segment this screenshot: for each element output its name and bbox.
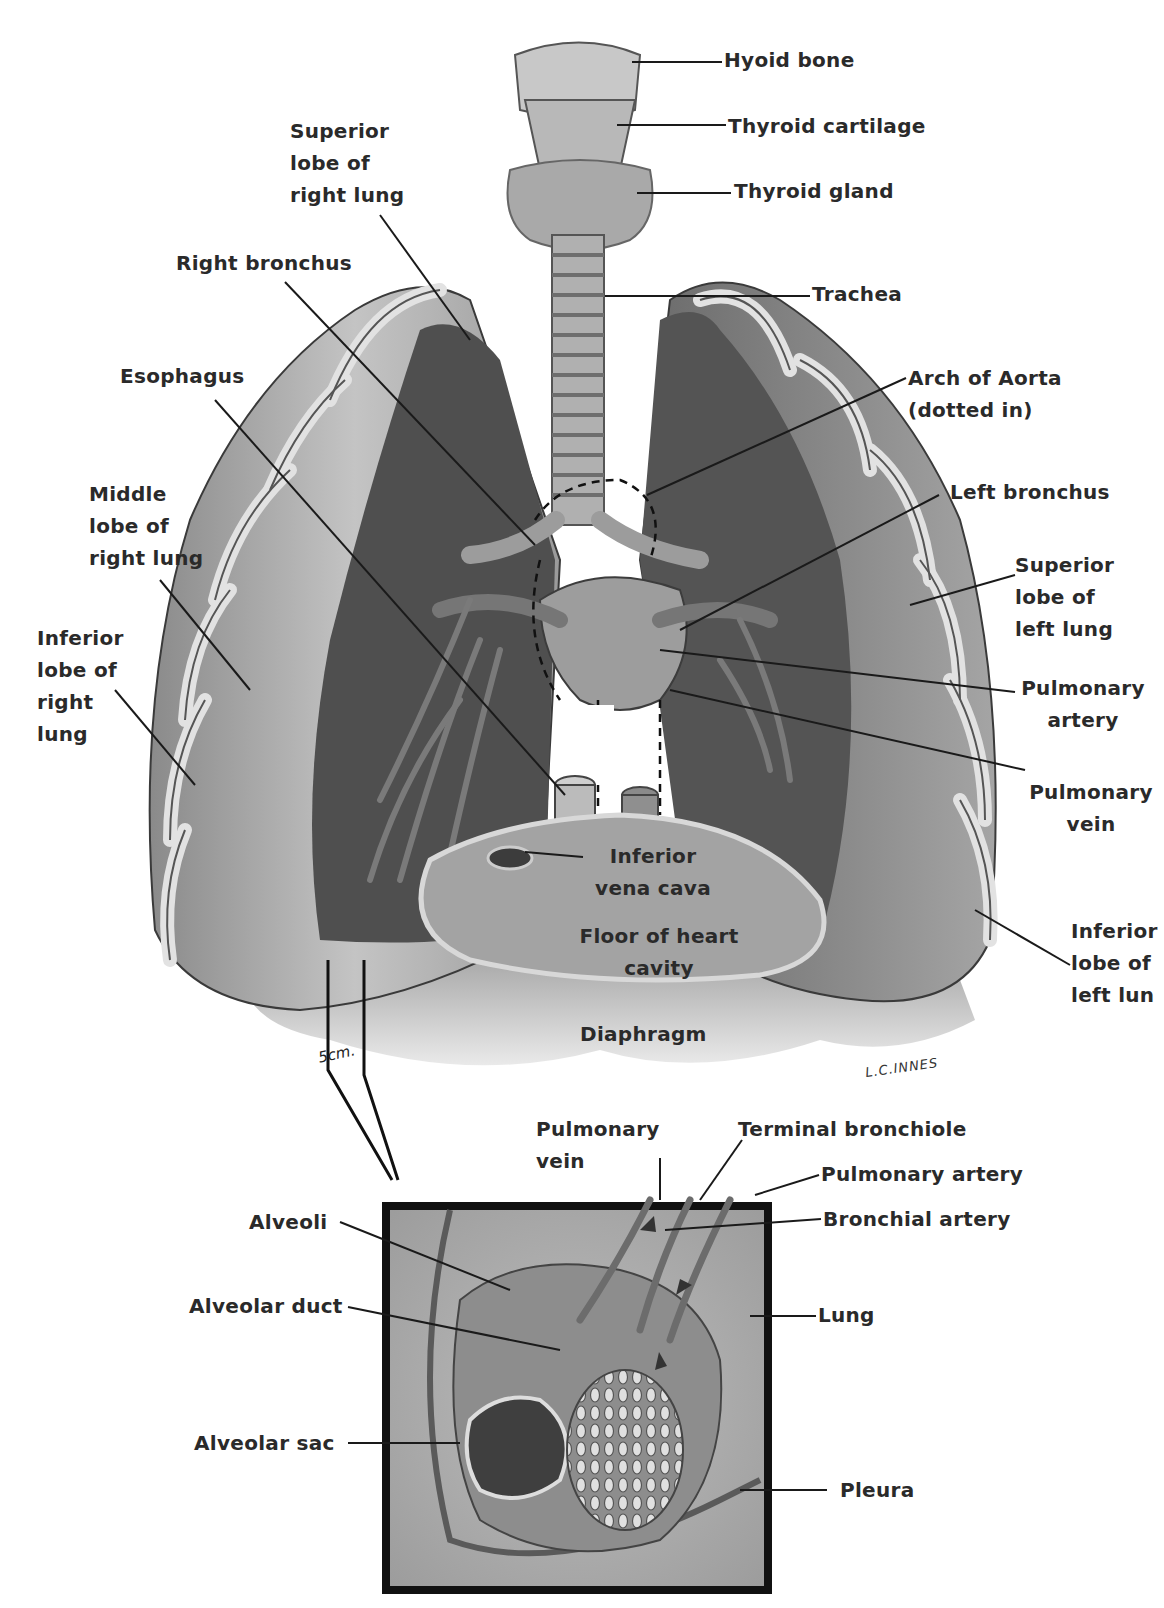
- inset-label-lung: Lung: [818, 1299, 875, 1331]
- label-diaphragm: Diaphragm: [580, 1018, 707, 1050]
- label-left-bronchus: Left bronchus: [950, 476, 1110, 508]
- anatomy-illustration: [0, 0, 1164, 1608]
- label-trachea: Trachea: [812, 278, 902, 310]
- label-arch-of-aorta: Arch of Aorta (dotted in): [908, 362, 1062, 426]
- alveoli-inset-box: [386, 1200, 768, 1590]
- label-hyoid-bone: Hyoid bone: [724, 44, 855, 76]
- inset-label-alveoli: Alveoli: [249, 1206, 328, 1238]
- label-pulmonary-vein: Pulmonary vein: [1025, 776, 1157, 840]
- label-thyroid-cartilage: Thyroid cartilage: [728, 110, 926, 142]
- label-superior-lobe-left-lung: Superior lobe of left lung: [1015, 549, 1114, 645]
- label-right-bronchus: Right bronchus: [176, 247, 352, 279]
- inset-label-bronchial-artery: Bronchial artery: [823, 1203, 1011, 1235]
- label-thyroid-gland: Thyroid gland: [734, 175, 894, 207]
- label-inferior-lobe-right-lung: Inferior lobe of right lung: [37, 622, 124, 750]
- label-floor-of-heart-cavity: Floor of heart cavity: [566, 920, 752, 984]
- label-middle-lobe-right-lung: Middle lobe of right lung: [89, 478, 203, 574]
- inset-label-pulmonary-artery: Pulmonary artery: [821, 1158, 1023, 1190]
- label-inferior-vena-cava: Inferior vena cava: [584, 840, 722, 904]
- inset-label-terminal-bronchiole: Terminal bronchiole: [738, 1113, 967, 1145]
- inset-label-pulmonary-vein: Pulmonary vein: [536, 1113, 660, 1177]
- label-esophagus: Esophagus: [120, 360, 245, 392]
- inset-label-alveolar-duct: Alveolar duct: [189, 1290, 343, 1322]
- label-superior-lobe-right-lung: Superior lobe of right lung: [290, 115, 404, 211]
- label-pulmonary-artery: Pulmonary artery: [1012, 672, 1154, 736]
- label-inferior-lobe-left-lung: Inferior lobe of left lun: [1071, 915, 1158, 1011]
- inset-label-pleura: Pleura: [840, 1474, 914, 1506]
- inset-label-alveolar-sac: Alveolar sac: [194, 1427, 335, 1459]
